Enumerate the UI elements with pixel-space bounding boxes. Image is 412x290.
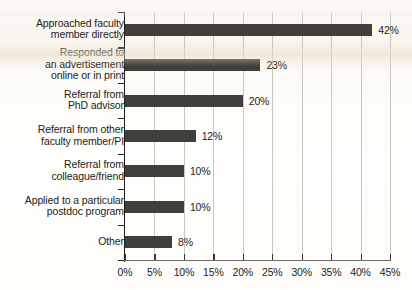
x-axis-line — [124, 260, 391, 261]
category-label-3: Referral from other faculty member/PI — [0, 124, 124, 147]
y-tick-2 — [118, 83, 124, 84]
gridline-45% — [390, 12, 391, 260]
y-tick-0 — [118, 12, 124, 13]
bar-value-label-2: 20% — [249, 95, 269, 107]
category-label-2: Referral from PhD advisor — [0, 89, 124, 112]
bar-2 — [125, 95, 243, 107]
gridline-20% — [243, 12, 244, 260]
gridline-35% — [331, 12, 332, 260]
bar-6 — [125, 236, 172, 248]
bar-0 — [125, 24, 372, 36]
bar-5 — [125, 201, 184, 213]
bar-value-label-6: 8% — [178, 236, 193, 248]
x-tick-label-45%: 45% — [370, 266, 410, 278]
y-tick-4 — [118, 154, 124, 155]
gridline-30% — [302, 12, 303, 260]
y-tick-3 — [118, 118, 124, 119]
y-tick-7 — [118, 260, 124, 261]
bar-value-label-3: 12% — [202, 130, 222, 142]
category-label-4: Referral from colleague/friend — [0, 159, 124, 182]
y-tick-6 — [118, 225, 124, 226]
category-label-5: Applied to a particular postdoc program — [0, 195, 124, 218]
bar-value-label-5: 10% — [190, 201, 210, 213]
gridline-25% — [272, 12, 273, 260]
bar-3 — [125, 130, 196, 142]
bar-1 — [125, 59, 260, 71]
category-label-0: Approached faculty member directly — [0, 18, 124, 41]
bar-4 — [125, 165, 184, 177]
horizontal-bar-chart: Approached faculty member directlyRespon… — [0, 0, 412, 290]
y-tick-5 — [118, 189, 124, 190]
bar-value-label-1: 23% — [266, 59, 286, 71]
bar-value-label-0: 42% — [378, 24, 398, 36]
gridline-40% — [361, 12, 362, 260]
category-label-1: Responded to an advertisement online or … — [0, 47, 124, 82]
bar-value-label-4: 10% — [190, 165, 210, 177]
category-label-6: Other — [0, 236, 124, 248]
